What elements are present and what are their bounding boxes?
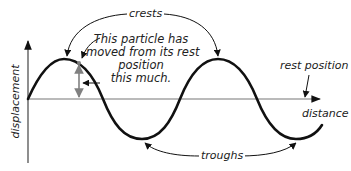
- rest-position-pointer: [305, 75, 309, 97]
- trough-pointer-left: [145, 143, 199, 156]
- trough-pointer-right: [240, 143, 296, 156]
- particle-dot: [77, 61, 81, 65]
- wave-diagram: crests This particle has moved from its …: [0, 0, 351, 171]
- troughs-label: troughs: [199, 150, 245, 161]
- wave-diagram-canvas: [0, 0, 351, 171]
- crests-label: crests: [127, 8, 164, 19]
- rest-position-label: rest position: [278, 60, 350, 71]
- y-axis-label: displacement: [9, 62, 22, 142]
- x-axis-label: distance: [300, 108, 351, 119]
- particle-callout: This particle has moved from its rest po…: [86, 33, 196, 85]
- particle-callout-line-4: this much.: [86, 72, 196, 85]
